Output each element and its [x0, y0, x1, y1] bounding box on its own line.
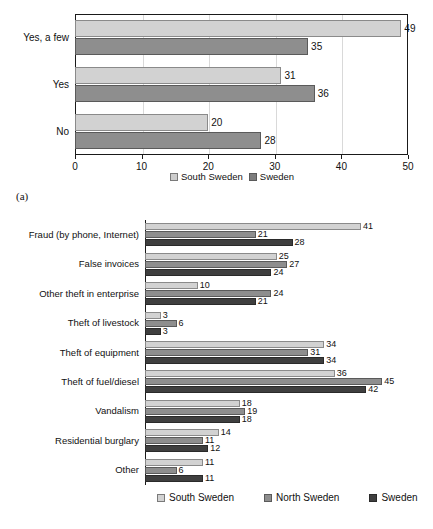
chart-b-bar-value: 6 — [179, 319, 184, 328]
chart-b-bar — [145, 312, 161, 319]
chart-a-legend: South SwedenSweden — [170, 171, 294, 182]
chart-a-bar-value: 28 — [264, 136, 275, 146]
chart-b-bar-value: 14 — [221, 428, 231, 437]
chart-b-bar-value: 34 — [326, 340, 336, 349]
chart-b-bar — [145, 467, 177, 474]
chart-b-legend-label: South Sweden — [169, 492, 234, 503]
chart-a-tick — [142, 155, 143, 159]
chart-b-legend-label: North Sweden — [276, 492, 339, 503]
chart-b-legend: South SwedenNorth SwedenSweden — [157, 492, 433, 503]
chart-b-legend-swatch — [264, 494, 272, 502]
chart-b-category-label: Theft of livestock — [0, 318, 139, 328]
chart-b-bar — [145, 386, 366, 393]
chart-b-category-label: Residential burglary — [0, 436, 139, 446]
chart-b-bar-value: 34 — [326, 356, 336, 365]
chart-panel-a: South SwedenSweden (a) Yes, a few4935Yes… — [0, 0, 433, 200]
chart-b-bar-value: 3 — [163, 311, 168, 320]
chart-b-bar — [145, 416, 240, 423]
chart-b-bar — [145, 239, 293, 246]
chart-a-bar-value: 31 — [284, 71, 295, 81]
chart-b-bar — [145, 475, 203, 482]
chart-a-legend-item: Sweden — [249, 171, 294, 182]
chart-b-bar — [145, 231, 256, 238]
chart-b-bar-value: 11 — [205, 458, 214, 467]
chart-b-bar — [145, 320, 177, 327]
chart-b-legend-item: South Sweden — [157, 492, 234, 503]
chart-a-tick-label: 10 — [127, 161, 157, 172]
chart-a-tick-label: 40 — [326, 161, 356, 172]
chart-b-category-label: Other theft in enterprise — [0, 289, 139, 299]
chart-a-tick-label: 30 — [260, 161, 290, 172]
chart-b-bar — [145, 253, 277, 260]
chart-b-bar-value: 36 — [337, 369, 347, 378]
chart-a-bar — [75, 38, 308, 55]
chart-a-tick-label: 0 — [60, 161, 90, 172]
chart-b-bar-value: 41 — [363, 222, 373, 231]
chart-b-bar-value: 25 — [279, 252, 289, 261]
chart-b-bar — [145, 378, 382, 385]
chart-b-bar — [145, 445, 208, 452]
chart-b-bar-value: 42 — [368, 385, 378, 394]
chart-b-bar-value: 24 — [273, 268, 283, 277]
chart-b-category-label: Other — [0, 465, 139, 475]
chart-a-tick — [208, 155, 209, 159]
chart-b-bar-value: 45 — [384, 377, 394, 386]
chart-b-bar — [145, 223, 361, 230]
chart-b-bar — [145, 261, 287, 268]
chart-a-category-label: No — [0, 126, 69, 137]
chart-a-legend-label: South Sweden — [181, 171, 243, 182]
chart-a-legend-item: South Sweden — [170, 171, 243, 182]
chart-b-legend-item: North Sweden — [264, 492, 339, 503]
chart-a-tick-label: 50 — [393, 161, 423, 172]
chart-a-bar — [75, 20, 401, 37]
chart-b-bar — [145, 400, 240, 407]
chart-a-category-label: Yes — [0, 79, 69, 90]
chart-b-bar-value: 27 — [289, 260, 299, 269]
chart-b-bar-value: 18 — [242, 415, 252, 424]
chart-a-legend-label: Sweden — [260, 171, 294, 182]
chart-a-bar-value: 49 — [404, 24, 415, 34]
chart-b-category-label: Theft of equipment — [0, 348, 139, 358]
chart-b-bar — [145, 298, 256, 305]
chart-b-bar-value: 28 — [295, 238, 305, 247]
chart-b-bar-value: 6 — [179, 466, 184, 475]
chart-panel-b: South SwedenNorth SwedenSweden (b) Fraud… — [0, 205, 433, 529]
chart-b-bar — [145, 357, 324, 364]
chart-b-legend-swatch — [369, 494, 377, 502]
chart-a-bar — [75, 85, 315, 102]
chart-b-legend-label: Sweden — [381, 492, 417, 503]
chart-b-bar — [145, 269, 271, 276]
chart-a-tick — [408, 155, 409, 159]
chart-a-bar — [75, 67, 281, 84]
chart-b-bar — [145, 290, 271, 297]
chart-b-category-label: Theft of fuel/diesel — [0, 377, 139, 387]
chart-b-bar-value: 3 — [163, 327, 168, 336]
chart-b-category-label: Vandalism — [0, 406, 139, 416]
chart-b-bar-value: 31 — [310, 348, 320, 357]
chart-a-bar-value: 20 — [211, 118, 222, 128]
chart-a-bar — [75, 132, 261, 149]
chart-b-bar — [145, 282, 198, 289]
chart-a-bar-value: 36 — [318, 89, 329, 99]
chart-a-category-label: Yes, a few — [0, 32, 69, 43]
chart-a-bar — [75, 114, 208, 131]
chart-b-bar — [145, 341, 324, 348]
panel-a-label: (a) — [16, 190, 28, 202]
chart-b-bar — [145, 437, 203, 444]
chart-b-bar-value: 24 — [273, 289, 283, 298]
chart-a-tick-label: 20 — [193, 161, 223, 172]
chart-a-legend-swatch — [249, 173, 257, 181]
chart-a-tick — [275, 155, 276, 159]
chart-b-bar-value: 11 — [205, 474, 214, 483]
chart-b-category-label: False invoices — [0, 259, 139, 269]
chart-a-tick — [75, 155, 76, 159]
chart-b-bar — [145, 328, 161, 335]
chart-b-bar — [145, 370, 335, 377]
chart-a-tick — [341, 155, 342, 159]
chart-b-bar — [145, 408, 245, 415]
chart-b-bar-value: 21 — [258, 230, 268, 239]
chart-b-bar-value: 21 — [258, 297, 268, 306]
chart-b-bar-value: 10 — [200, 281, 210, 290]
chart-b-bar — [145, 459, 203, 466]
chart-a-legend-swatch — [170, 173, 178, 181]
